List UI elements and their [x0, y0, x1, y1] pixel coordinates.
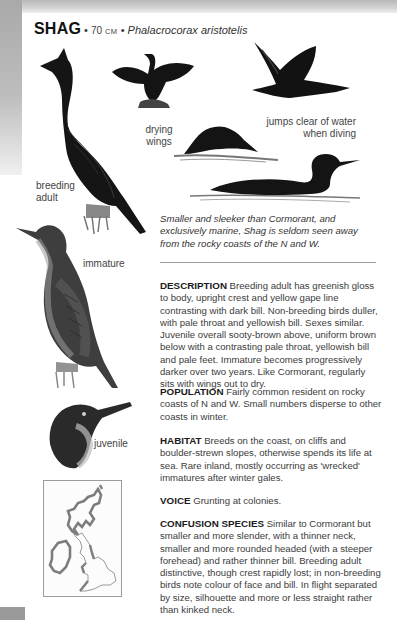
- section-divider: [160, 262, 376, 263]
- scan-edge-top: [0, 0, 397, 14]
- section-text: Grunting at colonies.: [191, 495, 282, 506]
- juvenile-head-illustration: [46, 398, 136, 473]
- title-separator: •: [81, 24, 91, 36]
- section-heading: VOICE: [160, 495, 191, 506]
- section-text: Breeding adult has greenish gloss to bod…: [160, 280, 378, 389]
- section-description: DESCRIPTION Breeding adult has greenish …: [160, 280, 382, 391]
- common-name: SHAG: [34, 20, 81, 37]
- distribution-map: [43, 480, 122, 597]
- britain-ireland-map-icon: [44, 481, 121, 596]
- flying-illustration: [240, 36, 360, 106]
- title-separator-2: •: [118, 24, 128, 36]
- section-confusion-species: CONFUSION SPECIES Similar to Cormorant b…: [160, 518, 382, 616]
- size-value: 70: [91, 25, 102, 36]
- section-heading: DESCRIPTION: [160, 280, 227, 291]
- swimming-illustration: [190, 150, 370, 205]
- latin-name: Phalacrocorax aristotelis: [128, 24, 248, 36]
- section-voice: VOICE Grunting at colonies.: [160, 495, 382, 507]
- label-immature: immature: [83, 258, 125, 270]
- drying-wings-illustration: [110, 50, 200, 110]
- section-population: POPULATION Fairly common resident on roc…: [160, 386, 382, 423]
- label-drying-wings: drying wings: [139, 124, 179, 148]
- section-heading: CONFUSION SPECIES: [160, 518, 264, 529]
- thumb-index-tab: [0, 607, 25, 620]
- species-title: SHAG • 70 CM • Phalacrocorax aristotelis: [34, 20, 247, 38]
- label-jumps-clear: jumps clear of water when diving: [262, 116, 356, 140]
- section-text: Similar to Cormorant but smaller and mor…: [160, 518, 381, 615]
- size: 70 CM: [91, 25, 118, 36]
- section-heading: POPULATION: [160, 386, 224, 397]
- immature-illustration: [14, 222, 124, 392]
- intro-caption: Smaller and sleeker than Cormorant, and …: [160, 213, 378, 250]
- label-juvenile: juvenile: [94, 438, 128, 450]
- section-heading: HABITAT: [160, 435, 202, 446]
- size-unit: CM: [105, 27, 118, 36]
- section-habitat: HABITAT Breeds on the coast, on cliffs a…: [160, 435, 382, 484]
- label-breeding-adult: breeding adult: [36, 180, 75, 204]
- scan-edge-left: [0, 0, 22, 175]
